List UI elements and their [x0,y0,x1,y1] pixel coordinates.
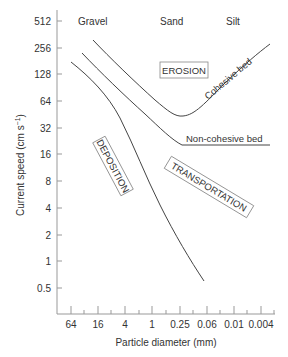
x-tick-label: 0.06 [197,319,217,330]
y-tick-label: 32 [40,123,52,134]
transportation-region-label: TRANSPORTATION [164,156,253,217]
erosion-region-label: EROSION [160,62,208,78]
non-cohesive-bed-label: Non-cohesive bed [186,133,263,144]
y-ticks [57,21,62,288]
x-tick-label: 0.25 [170,319,190,330]
x-ticks [71,306,274,314]
y-tick-label: 256 [34,43,51,54]
y-tick-label: 16 [40,149,52,160]
y-tick-label: 128 [34,69,51,80]
y-tick-label: 64 [40,96,52,107]
hjulstrom-chart: 512 256 128 64 32 16 8 4 2 1 0.5 64 16 4… [0,0,288,357]
x-tick-label: 0.004 [248,319,273,330]
y-tick-label: 8 [45,176,51,187]
cohesive-bed-label: Cohesive bed [202,56,254,102]
x-tick-label: 0.01 [224,319,244,330]
x-tick-label: 16 [92,319,104,330]
y-tick-label: 4 [45,203,51,214]
svg-text:DEPOSITION: DEPOSITION [94,138,131,195]
deposition-region-label: DEPOSITION [93,136,134,196]
x-tick-label: 64 [65,319,77,330]
x-tick-label: 1 [149,319,155,330]
y-tick-label: 0.5 [37,283,51,294]
y-tick-label: 512 [34,16,51,27]
x-tick-labels: 64 16 4 1 0.25 0.06 0.01 0.004 [65,319,274,330]
x-axis-title: Particle diameter (mm) [115,337,216,348]
svg-text:EROSION: EROSION [162,65,206,76]
y-tick-label: 1 [45,256,51,267]
x-tick-label: 4 [122,319,128,330]
y-tick-label: 2 [45,230,51,241]
y-axis-title: Current speed (cm s−1) [14,114,26,216]
y-tick-labels: 512 256 128 64 32 16 8 4 2 1 0.5 [34,16,51,294]
svg-text:TRANSPORTATION: TRANSPORTATION [169,160,249,214]
silt-label: Silt [226,16,240,27]
sand-label: Sand [160,16,183,27]
gravel-label: Gravel [78,16,107,27]
